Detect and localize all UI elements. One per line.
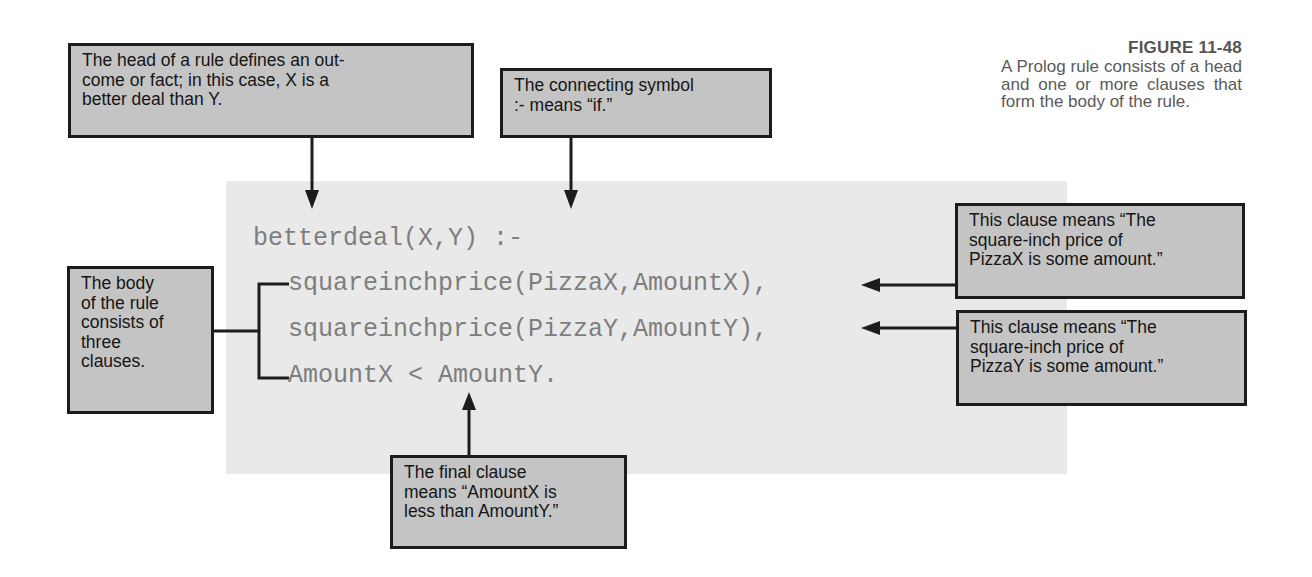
arrowhead-left-icon [861, 278, 880, 292]
body-bracket [259, 284, 289, 378]
arrowhead-up-icon [462, 392, 476, 410]
connectors-layer [0, 0, 1312, 577]
arrowhead-down-icon [564, 190, 578, 209]
arrowhead-left-icon [861, 321, 880, 335]
arrowhead-down-icon [305, 190, 319, 209]
